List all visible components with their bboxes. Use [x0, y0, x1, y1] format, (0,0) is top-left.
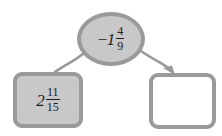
math-diagram: − 1 4 9 2 11 15	[0, 0, 222, 136]
top-node-whole: 1	[107, 31, 116, 48]
node-bottom-right-box[interactable]	[149, 73, 216, 129]
bottom-left-expression: 2 11 15	[36, 86, 60, 113]
bottom-left-numerator: 11	[46, 86, 60, 99]
bottom-left-whole: 2	[36, 92, 45, 109]
top-node-expression: − 1 4 9	[98, 25, 125, 52]
connector-top-to-bottom-right	[141, 51, 170, 69]
top-node-fraction: 4 9	[116, 25, 124, 52]
node-top-ellipse[interactable]: − 1 4 9	[77, 12, 145, 66]
connector-top-to-bottom-left	[55, 53, 84, 72]
top-node-sign: −	[98, 31, 107, 48]
top-node-denominator: 9	[116, 38, 124, 52]
node-bottom-left-box[interactable]: 2 11 15	[13, 72, 83, 128]
top-node-numerator: 4	[116, 25, 124, 38]
bottom-left-fraction: 11 15	[46, 86, 60, 113]
bottom-left-denominator: 15	[46, 99, 60, 113]
